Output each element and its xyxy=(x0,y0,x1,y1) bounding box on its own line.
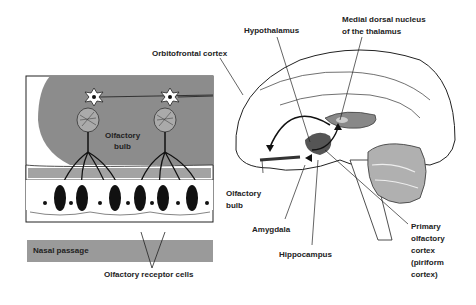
label-hippocampus: Hippocampus xyxy=(279,250,332,260)
label-olfactory-receptor-cells: Olfactory receptor cells xyxy=(104,270,193,280)
label-primary-olfactory-line4: (piriform xyxy=(411,258,444,268)
label-nasal-passage: Nasal passage xyxy=(33,246,89,256)
label-orbitofrontal-cortex: Orbitofrontal cortex xyxy=(152,49,227,59)
label-medial-dorsal-nucleus-line1: Medial dorsal nucleus xyxy=(342,15,426,25)
label-amygdala: Amygdala xyxy=(252,225,290,235)
label-primary-olfactory-line3: cortex xyxy=(411,246,435,256)
label-hypothalamus: Hypothalamus xyxy=(244,26,299,36)
inset-panel xyxy=(26,76,213,268)
label-primary-olfactory-line2: olfactory xyxy=(411,234,445,244)
label-primary-olfactory-line1: Primary xyxy=(411,222,441,232)
label-medial-dorsal-nucleus-line2: of the thalamus xyxy=(342,27,401,37)
label-olfactory-bulb-inset-line2: bulb xyxy=(114,142,131,152)
label-olfactory-bulb-line2: bulb xyxy=(226,201,243,211)
diagram-canvas xyxy=(0,0,476,305)
label-primary-olfactory-line5: cortex) xyxy=(411,270,438,280)
label-olfactory-bulb-inset-line1: Olfactory xyxy=(105,131,140,141)
brain-section xyxy=(236,50,455,240)
label-olfactory-bulb-line1: Olfactory xyxy=(226,189,261,199)
